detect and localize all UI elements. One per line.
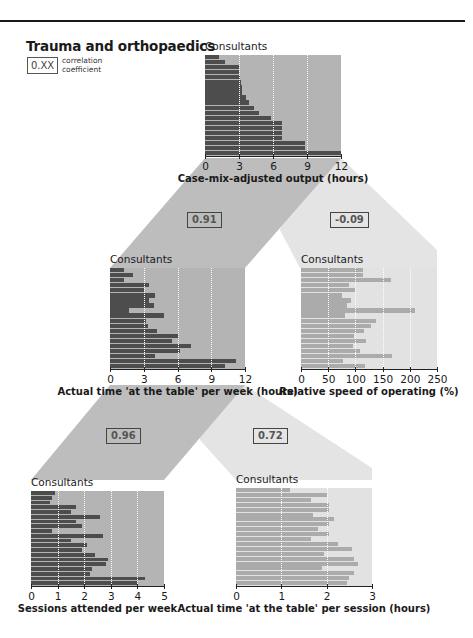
correlation-badge: -0.09 [330,212,369,228]
bar [205,75,240,79]
bar [205,70,239,74]
tick-label: 3 [236,160,243,172]
bar [205,100,249,104]
gridline [328,268,329,369]
tick-label: 12 [239,373,252,385]
bar [31,558,108,562]
tick-label: 150 [373,373,393,385]
bar [31,534,103,538]
bar [236,537,311,541]
gridline [281,488,282,586]
correlation-badge: 0.91 [187,212,222,228]
bar [205,85,242,89]
bar [236,576,349,580]
bar [301,278,391,282]
tick-label: 2 [324,590,331,602]
gridline [144,268,145,369]
bar [110,349,180,353]
bar [205,136,282,140]
tick-label: 50 [322,373,335,385]
bar [301,324,371,328]
tick-label: 9 [304,160,311,172]
tick-label: 9 [208,373,215,385]
gridline [372,488,373,586]
plot-area [205,55,341,156]
bar [31,539,71,543]
bar [301,354,392,358]
bar [205,131,282,135]
x-axis-label: Sessions attended per week [18,603,177,614]
bar [301,308,415,312]
plot-area [110,268,245,369]
bar [205,65,239,69]
bar [31,562,106,566]
bar [31,577,145,581]
bar [236,562,358,566]
tick-label: 6 [175,373,182,385]
bar [301,268,363,272]
tick-label: 100 [346,373,366,385]
bar [205,141,305,145]
bar [205,121,282,125]
gridline [84,491,85,586]
bar [31,505,76,509]
gridline [327,488,328,586]
tick-label: 6 [270,160,277,172]
tick-label: 0 [298,373,305,385]
bar [110,344,191,348]
tick-label: 2 [81,590,88,602]
tick-label: 4 [135,590,142,602]
gridline [273,55,274,156]
bar [205,80,241,84]
bar [205,111,259,115]
tick-label: 3 [141,373,148,385]
bar [301,319,376,323]
chart-title: Consultants [110,253,172,265]
bar [236,527,318,531]
bar [31,496,52,500]
bar [110,354,155,358]
plot-area [31,491,164,586]
x-axis-label: Relative speed of operating (%) [279,386,458,397]
bar [31,548,82,552]
bar [110,364,225,368]
x-axis [301,369,438,370]
bar [301,298,351,302]
gridline [58,491,59,586]
bar [110,313,164,317]
tick-label: 0 [202,160,209,172]
bar [31,529,52,533]
bar [236,517,334,521]
bar [301,273,363,277]
bar [301,359,343,363]
bar [31,520,76,524]
bar [301,293,342,297]
tick-label: 250 [427,373,447,385]
bar [236,547,352,551]
bar [31,524,82,528]
gridline [245,268,246,369]
bar [31,501,50,505]
bar [205,60,225,64]
chart-title: Consultants [301,253,363,265]
bar [31,553,95,557]
bar [205,90,242,94]
gridline [211,268,212,369]
chart-title: Consultants [205,40,267,52]
bar [110,324,148,328]
bar [236,498,311,502]
bar [236,508,329,512]
tick-label: 1 [278,590,285,602]
bar [301,303,347,307]
bar [110,319,146,323]
gridline [178,268,179,369]
chart-title: Consultants [236,473,298,485]
chart-title: Consultants [31,476,93,488]
gridline [111,491,112,586]
tick-label: 5 [161,590,168,602]
gridline [341,55,342,156]
x-axis-label: Case-mix-adjusted output (hours) [178,173,368,184]
gridline [437,268,438,369]
tick-label: 200 [400,373,420,385]
bar [110,308,129,312]
